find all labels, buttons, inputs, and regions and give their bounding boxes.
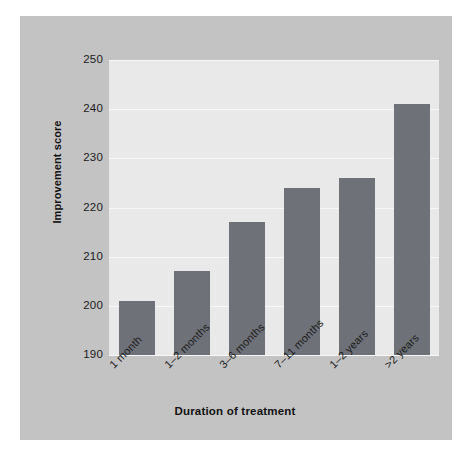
figure-panel: Improvement score 190200210220230240250 …	[20, 16, 452, 440]
gridline-240	[109, 109, 439, 110]
gridline-250	[109, 60, 439, 61]
gridline-220	[109, 208, 439, 209]
bar	[339, 178, 375, 355]
y-tick-label: 220	[71, 201, 103, 213]
y-tick-label: 210	[71, 250, 103, 262]
gridline-230	[109, 158, 439, 159]
plot-area	[109, 60, 439, 355]
gridline-210	[109, 257, 439, 258]
x-axis-title: Duration of treatment	[0, 405, 470, 417]
y-tick-label: 250	[71, 53, 103, 65]
y-tick-label: 200	[71, 299, 103, 311]
gridline-200	[109, 306, 439, 307]
y-tick-label: 230	[71, 151, 103, 163]
y-tick-label: 240	[71, 102, 103, 114]
bar	[394, 104, 430, 355]
y-tick-label: 190	[71, 348, 103, 360]
y-axis-title: Improvement score	[51, 102, 63, 242]
chart-figure: Improvement score 190200210220230240250 …	[0, 0, 470, 457]
